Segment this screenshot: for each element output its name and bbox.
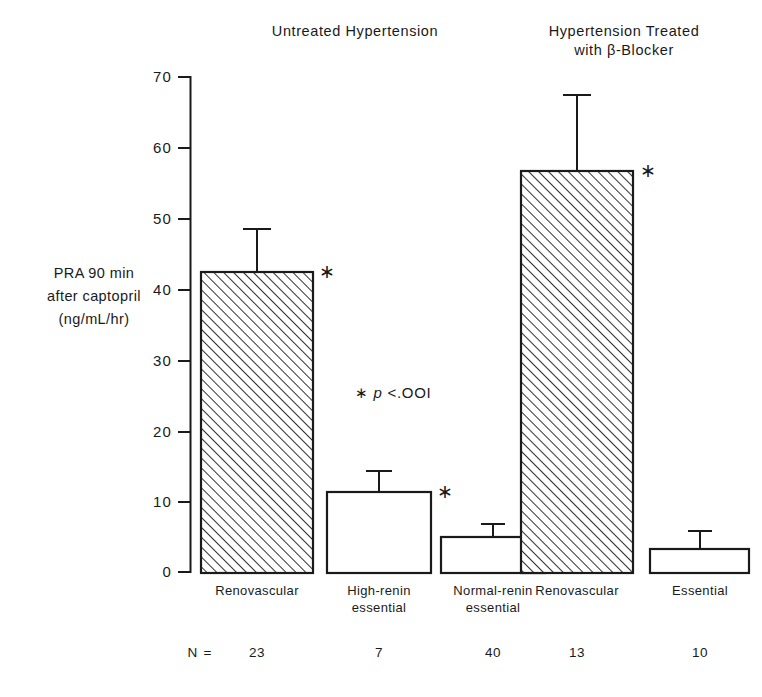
y-tick-10: 10 bbox=[128, 493, 172, 510]
x-label-renovascular-treated: Renovascular bbox=[514, 582, 640, 599]
y-tick-20: 20 bbox=[128, 423, 172, 440]
bar-high-renin-essential bbox=[327, 471, 431, 573]
bar-essential-treated bbox=[650, 531, 749, 573]
y-tick-0: 0 bbox=[128, 563, 172, 580]
significance-star-bar-2: ∗ bbox=[437, 482, 453, 501]
y-tick-50: 50 bbox=[128, 210, 172, 227]
p-annotation-star: ∗ bbox=[355, 384, 369, 401]
bar-renovascular-treated bbox=[521, 95, 633, 573]
n-value-bar-3: 40 bbox=[463, 645, 523, 660]
y-tick-60: 60 bbox=[128, 139, 172, 156]
figure-canvas: Untreated Hypertension Hypertension Trea… bbox=[0, 0, 762, 697]
n-value-bar-2: 7 bbox=[349, 645, 409, 660]
x-label-high-renin-essential: High-renin essential bbox=[319, 582, 439, 616]
n-value-bar-4: 13 bbox=[547, 645, 607, 660]
n-value-bar-1: 23 bbox=[227, 645, 287, 660]
p-annotation-value: <.OOI bbox=[388, 384, 432, 401]
p-value-annotation: ∗ p <.OOI bbox=[355, 384, 431, 402]
significance-star-bar-1: ∗ bbox=[319, 262, 335, 281]
y-tick-70: 70 bbox=[128, 68, 172, 85]
y-tick-30: 30 bbox=[128, 352, 172, 369]
x-label-renovascular-untreated: Renovascular bbox=[194, 582, 320, 599]
n-row-prefix: N = bbox=[170, 645, 230, 660]
bar-renovascular-untreated bbox=[201, 229, 313, 573]
n-value-bar-5: 10 bbox=[670, 645, 730, 660]
p-annotation-symbol: p bbox=[374, 384, 383, 401]
y-axis bbox=[178, 76, 191, 573]
y-tick-40: 40 bbox=[128, 281, 172, 298]
significance-star-bar-4: ∗ bbox=[640, 161, 656, 180]
x-label-essential-treated: Essential bbox=[645, 582, 755, 599]
